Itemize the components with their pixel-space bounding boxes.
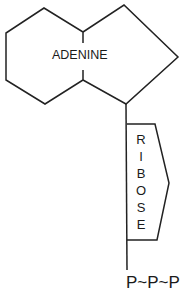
- diagram-lines: [0, 0, 186, 298]
- bond-line: [126, 104, 127, 270]
- ribose-letter: B: [135, 166, 147, 181]
- ribose-letter: S: [135, 200, 147, 215]
- triphosphate-label: P~P~P: [126, 273, 180, 293]
- ribose-letter: R: [135, 132, 147, 147]
- ribose-letter: E: [135, 217, 147, 232]
- ribose-letter: O: [135, 183, 147, 198]
- adenine-label: ADENINE: [52, 48, 108, 62]
- atp-diagram: ADENINE R I B O S E P~P~P: [0, 0, 186, 298]
- ribose-letter: I: [135, 149, 147, 164]
- ribose-shape: [127, 124, 169, 240]
